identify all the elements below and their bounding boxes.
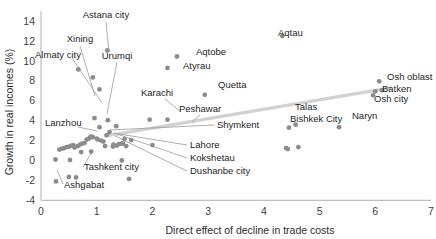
x-tick-label: 0 [38,205,44,217]
x-tick-label: 7 [428,205,434,217]
y-axis-title: Growth in real incomes (%) [3,49,15,176]
data-point [114,124,119,129]
chart-svg: 01234567-4-202468101214 Astana cityXinin… [0,0,436,239]
y-tick-label: 12 [23,35,35,47]
data-point [97,125,102,130]
point-label: Shymkent [217,119,260,130]
x-tick-label: 4 [261,205,267,217]
x-tick-label: 5 [317,205,323,217]
leader-line [107,62,117,114]
data-point [105,118,110,123]
y-tick-label: -4 [26,194,35,206]
data-point [122,137,127,142]
data-point [76,67,81,72]
point-label: Lanzhou [45,117,81,128]
point-label: Quetta [218,79,247,90]
point-label: Tashkent city [84,161,139,172]
data-point [337,125,342,130]
y-tick-label: 4 [29,114,35,126]
data-point [53,157,58,162]
point-label: Lahore [190,139,220,150]
data-point [89,149,94,154]
point-label: Astana city [83,9,130,20]
y-tick-label: 10 [23,55,35,67]
data-point [79,150,84,155]
leader-line [106,22,109,52]
data-point [284,146,289,151]
point-label: Xining [67,33,93,44]
x-tick-label: 2 [150,205,156,217]
data-point [175,54,180,59]
data-point [287,125,292,130]
data-point [165,66,170,71]
scatter-chart: 01234567-4-202468101214 Astana cityXinin… [0,0,436,239]
x-tick-label: 3 [205,205,211,217]
data-point [202,92,207,97]
x-tick-label: 6 [372,205,378,217]
point-labels: Astana cityXiningAlmaty cityUrumqiAqtobe… [35,9,433,190]
point-label: Ashgabat [64,179,105,190]
y-tick-label: 14 [23,15,35,27]
point-label: Bishkek City [290,113,343,124]
point-label: Talas [295,101,317,112]
x-tick-label: 1 [94,205,100,217]
y-tick-label: 2 [29,134,35,146]
leader-line [72,58,102,103]
point-label: Peshawar [179,103,221,114]
point-label: Osh city [374,93,409,104]
data-point [147,117,152,122]
point-label: Osh oblast [387,71,433,82]
y-tick-label: -2 [26,174,35,186]
point-label: Almaty city [35,49,81,60]
data-point [104,133,109,138]
point-label: Urumqi [102,50,133,61]
y-tick-label: 0 [29,154,35,166]
point-label: Aqtobe [196,46,226,57]
point-label: Karachi [141,87,173,98]
data-point [121,141,126,146]
data-point [90,75,95,80]
data-point [127,177,132,182]
data-point [150,143,155,148]
point-label: Dushanbe city [190,165,250,176]
data-point [92,116,97,121]
data-point [101,139,106,144]
data-point [377,79,382,84]
data-point [103,144,108,149]
data-point [54,179,59,184]
x-axis-title: Direct effect of decline in trade costs [165,224,334,236]
data-point [110,144,115,149]
data-point [90,135,95,140]
data-point [68,158,73,163]
data-point [129,138,134,143]
y-tick-label: 6 [29,94,35,106]
data-point [296,145,301,150]
point-label: Aqtau [278,27,303,38]
point-label: Naryn [352,110,377,121]
data-point [97,87,102,92]
data-point [165,117,170,122]
point-label: Kokshetau [190,152,235,163]
point-label: Atyrau [183,60,210,71]
y-tick-label: 8 [29,74,35,86]
